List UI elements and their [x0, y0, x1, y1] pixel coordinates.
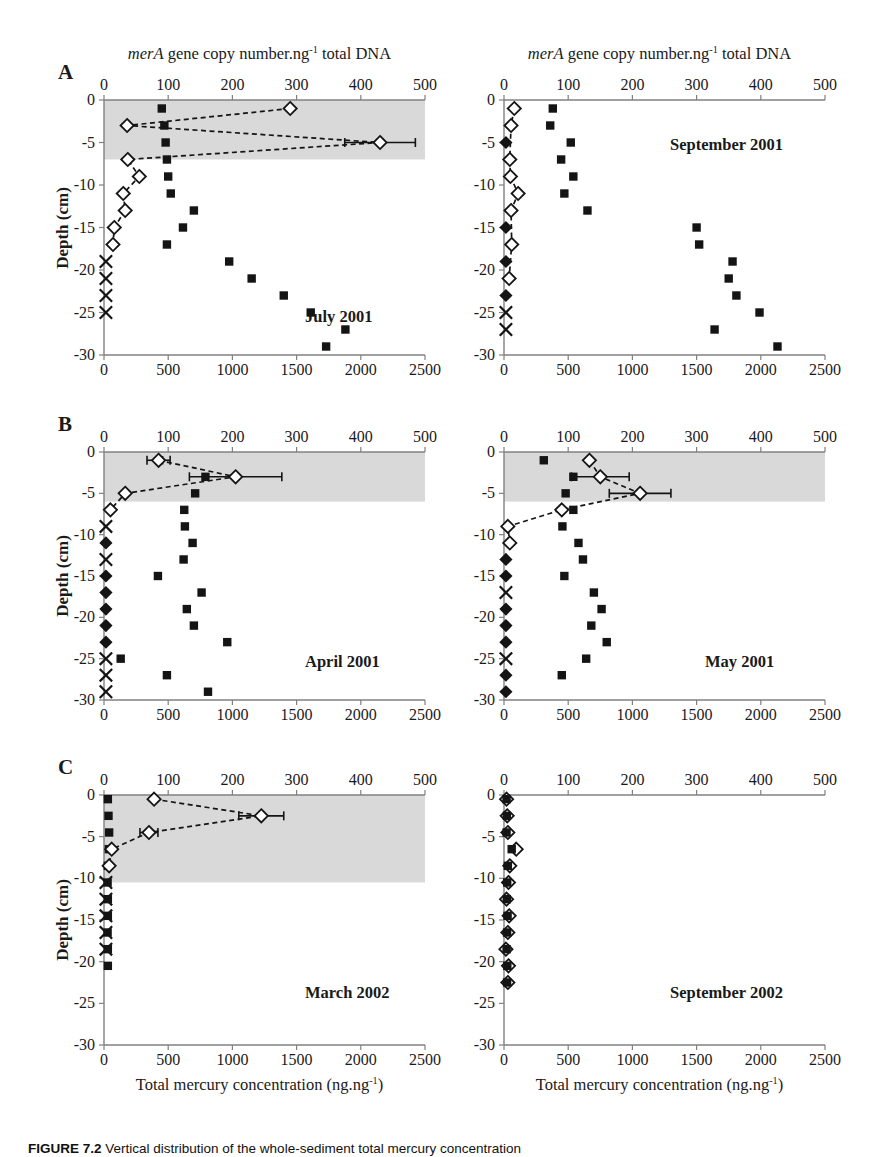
- bottom-tick-label: 2500: [809, 361, 841, 379]
- marker-filled-diamond: [99, 636, 112, 649]
- bottom-tick-label: 1000: [216, 1051, 248, 1069]
- marker-open-diamond: [499, 943, 512, 956]
- marker-open-diamond: [508, 102, 521, 115]
- top-tick-label: 0: [500, 428, 508, 446]
- marker-open-diamond: [502, 876, 515, 889]
- marker-filled-square: [154, 572, 162, 580]
- marker-filled-square: [558, 522, 566, 530]
- bottom-tick-label: 500: [156, 1051, 180, 1069]
- top-axis-title: merA gene copy number.ng-1 total DNA: [44, 44, 475, 64]
- marker-filled-square: [223, 638, 231, 646]
- depth-tick-label: -15: [74, 911, 95, 929]
- marker-open-diamond: [503, 153, 516, 166]
- error-bar: [189, 472, 281, 481]
- marker-cross: [100, 876, 112, 888]
- marker-filled-square: [560, 572, 568, 580]
- shaded-band: [104, 452, 425, 502]
- top-tick-label: 300: [685, 76, 709, 94]
- marker-open-diamond: [501, 976, 514, 989]
- bottom-tick-label: 1500: [281, 1051, 313, 1069]
- marker-filled-square: [104, 945, 112, 953]
- depth-tick-label: -5: [482, 484, 495, 502]
- marker-filled-square: [503, 928, 511, 936]
- marker-filled-square: [503, 878, 511, 886]
- marker-filled-diamond: [499, 619, 512, 632]
- bottom-tick-label: 1500: [681, 706, 713, 724]
- depth-tick-label: -20: [474, 608, 495, 626]
- marker-filled-diamond: [99, 569, 112, 582]
- bottom-tick-label: 2000: [745, 706, 777, 724]
- marker-filled-square: [180, 506, 188, 514]
- marker-filled-square: [540, 456, 548, 464]
- top-tick-label: 500: [813, 76, 837, 94]
- depth-tick-label: -10: [74, 176, 95, 194]
- depth-tick-label: 0: [87, 91, 95, 109]
- marker-open-diamond: [121, 153, 134, 166]
- marker-filled-square: [104, 795, 112, 803]
- bottom-tick-label: 2500: [409, 1051, 441, 1069]
- panel-letter-a: A: [58, 62, 73, 83]
- marker-open-diamond: [504, 119, 517, 132]
- series-connector: [110, 460, 235, 510]
- depth-tick-label: -5: [82, 484, 95, 502]
- depth-tick-label: -15: [74, 567, 95, 585]
- depth-tick-label: -20: [74, 608, 95, 626]
- bottom-tick-label: 500: [156, 706, 180, 724]
- marker-filled-square: [567, 138, 575, 146]
- bottom-tick-label: 1000: [216, 706, 248, 724]
- marker-filled-diamond: [499, 685, 512, 698]
- top-tick-label: 0: [500, 771, 508, 789]
- marker-cross: [500, 306, 512, 318]
- depth-axis-title: Depth (cm): [53, 187, 73, 269]
- depth-tick-label: -5: [82, 828, 95, 846]
- marker-cross: [100, 272, 112, 284]
- marker-open-diamond: [255, 809, 268, 822]
- marker-open-diamond: [500, 793, 513, 806]
- depth-tick-label: -30: [74, 691, 95, 709]
- marker-filled-square: [104, 962, 112, 970]
- marker-open-diamond: [105, 843, 118, 856]
- depth-tick-label: -30: [74, 346, 95, 364]
- marker-filled-diamond: [99, 619, 112, 632]
- error-bar: [609, 489, 671, 498]
- marker-filled-square: [204, 688, 212, 696]
- marker-filled-square: [160, 121, 168, 129]
- panel-letter-c: C: [58, 757, 73, 778]
- marker-cross: [100, 520, 112, 532]
- bottom-axis-title-superscript: -1: [369, 1075, 378, 1086]
- marker-filled-square: [692, 223, 700, 231]
- marker-open-diamond: [119, 204, 132, 217]
- marker-cross: [500, 586, 512, 598]
- marker-open-diamond: [373, 136, 386, 149]
- top-tick-label: 500: [413, 771, 437, 789]
- top-tick-label: 100: [556, 428, 580, 446]
- bottom-axis-title: Total mercury concentration (ng.ng-1): [44, 1075, 475, 1095]
- marker-cross: [100, 306, 112, 318]
- marker-filled-square: [504, 862, 512, 870]
- marker-open-diamond: [121, 119, 134, 132]
- depth-tick-label: -10: [74, 526, 95, 544]
- marker-filled-square: [179, 555, 187, 563]
- top-tick-label: 500: [413, 76, 437, 94]
- marker-filled-diamond: [99, 602, 112, 615]
- marker-filled-square: [105, 845, 113, 853]
- bottom-tick-label: 2000: [345, 361, 377, 379]
- marker-filled-square: [104, 895, 112, 903]
- top-tick-label: 300: [285, 771, 309, 789]
- marker-filled-square: [104, 862, 112, 870]
- top-tick-label: 300: [285, 428, 309, 446]
- marker-filled-square: [579, 555, 587, 563]
- marker-cross: [500, 323, 512, 335]
- marker-filled-diamond: [499, 289, 512, 302]
- marker-open-diamond: [504, 204, 517, 217]
- top-tick-label: 0: [100, 76, 108, 94]
- marker-filled-square: [158, 104, 166, 112]
- marker-cross: [100, 943, 112, 955]
- top-tick-label: 500: [413, 428, 437, 446]
- marker-filled-square: [728, 257, 736, 265]
- marker-cross: [100, 289, 112, 301]
- bottom-tick-label: 2500: [409, 706, 441, 724]
- bottom-tick-label: 2000: [745, 361, 777, 379]
- bottom-tick-label: 2500: [809, 706, 841, 724]
- top-tick-label: 300: [685, 428, 709, 446]
